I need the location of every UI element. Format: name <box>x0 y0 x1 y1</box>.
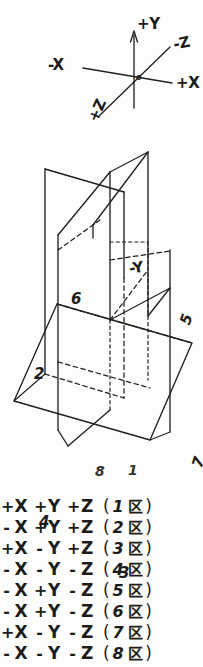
table-row: - X + Y - Z ( 6 区 ) <box>0 600 203 621</box>
y-sign: - <box>34 644 45 663</box>
axis-label-positive-x: +X <box>176 76 199 91</box>
z-sign: - <box>67 644 78 663</box>
y-axis-letter: Y <box>45 517 63 537</box>
y-sign: - <box>34 623 45 642</box>
x-sign: - <box>1 560 12 579</box>
octant-label-6: 6 <box>71 292 81 307</box>
table-row: - X + Y + Z ( 2 区 ) <box>0 516 203 537</box>
octant-number: 5 <box>109 581 126 600</box>
y-sign: + <box>34 497 45 516</box>
zone-character: 区 <box>126 495 145 516</box>
table-row: + X - Y + Z ( 3 区 ) <box>0 537 203 558</box>
x-axis-line <box>83 68 172 83</box>
z-sign: - <box>67 602 78 621</box>
zone-character: 区 <box>126 642 145 663</box>
y-axis-letter: Y <box>45 580 63 600</box>
octant-label-2: 2 <box>34 367 44 382</box>
y-sign: - <box>34 539 45 558</box>
x-sign: + <box>1 623 12 642</box>
y-sign: - <box>34 560 45 579</box>
z-sign: + <box>67 497 78 516</box>
octant-number: 1 <box>109 497 126 516</box>
axis-label-positive-y: +Y <box>137 17 160 32</box>
x-axis-letter: X <box>12 559 30 579</box>
x-sign: - <box>1 644 12 663</box>
table-row: - X - Y - Z ( 4 区 ) <box>0 558 203 579</box>
z-sign: - <box>67 560 78 579</box>
y-axis-letter: Y <box>45 622 63 642</box>
y-axis-letter: Y <box>45 538 63 558</box>
origin-label: o <box>136 74 142 82</box>
coordinate-axes-figure: +Y -Z -X +X +Z o <box>0 0 203 150</box>
z-sign: - <box>67 623 78 642</box>
axis-label-negative-z: -Z <box>172 35 191 53</box>
octant-number: 8 <box>109 644 126 663</box>
octant-number: 4 <box>109 560 126 579</box>
z-axis-letter: Z <box>78 580 96 600</box>
octant-number: 7 <box>109 623 126 642</box>
close-paren: ) <box>145 622 151 642</box>
table-row: - X + Y - Z ( 5 区 ) <box>0 579 203 600</box>
z-sign: + <box>67 518 78 537</box>
x-axis-letter: X <box>12 643 30 663</box>
z-sign: + <box>67 539 78 558</box>
x-axis-letter: X <box>12 517 30 537</box>
close-paren: ) <box>145 517 151 537</box>
x-axis-letter: X <box>12 496 30 516</box>
z-axis-letter: Z <box>78 538 96 558</box>
close-paren: ) <box>145 559 151 579</box>
plane-crossing-edges <box>14 152 170 440</box>
octant-number: 2 <box>109 518 126 537</box>
table-row: + X + Y + Z ( 1 区 ) <box>0 495 203 516</box>
z-axis-letter: Z <box>78 622 96 642</box>
y-axis-letter: Y <box>45 496 63 516</box>
y-axis-letter: Y <box>45 559 63 579</box>
zone-character: 区 <box>126 579 145 600</box>
octant-number: 6 <box>109 602 126 621</box>
x-sign: + <box>1 497 12 516</box>
x-sign: - <box>1 602 12 621</box>
zone-character: 区 <box>126 621 145 642</box>
z-axis-letter: Z <box>78 643 96 663</box>
octant-planes-figure: -Y 6 5 2 8 1 7 4 3 <box>0 130 203 480</box>
x-sign: - <box>1 581 12 600</box>
z-sign: - <box>67 581 78 600</box>
x-sign: + <box>1 539 12 558</box>
z-axis-letter: Z <box>78 601 96 621</box>
x-sign: - <box>1 518 12 537</box>
zone-character: 区 <box>126 600 145 621</box>
octant-sign-table: + X + Y + Z ( 1 区 ) - X + Y + Z ( 2 区 <box>0 495 203 663</box>
octant-label-8: 8 <box>95 464 105 478</box>
octant-number: 3 <box>109 539 126 558</box>
axis-label-negative-x: -X <box>48 58 64 73</box>
zone-character: 区 <box>126 537 145 558</box>
octant-label-1: 1 <box>128 463 138 477</box>
y-sign: + <box>34 518 45 537</box>
y-axis-letter: Y <box>45 643 63 663</box>
close-paren: ) <box>145 643 151 663</box>
zone-character: 区 <box>126 558 145 579</box>
z-axis-letter: Z <box>78 517 96 537</box>
table-row: - X - Y - Z ( 8 区 ) <box>0 642 203 663</box>
octant-figure-axis-label-negative-y: -Y <box>128 260 144 277</box>
close-paren: ) <box>145 538 151 558</box>
close-paren: ) <box>145 580 151 600</box>
close-paren: ) <box>145 601 151 621</box>
drawing-sheet: +Y -Z -X +X +Z o <box>0 0 203 667</box>
y-axis-letter: Y <box>45 601 63 621</box>
x-axis-letter: X <box>12 622 30 642</box>
x-axis-letter: X <box>12 538 30 558</box>
y-sign: + <box>34 602 45 621</box>
table-row: + X - Y - Z ( 7 区 ) <box>0 621 203 642</box>
x-axis-letter: X <box>12 580 30 600</box>
z-axis-letter: Z <box>78 496 96 516</box>
z-axis-letter: Z <box>78 559 96 579</box>
x-axis-letter: X <box>12 601 30 621</box>
zone-character: 区 <box>126 516 145 537</box>
y-sign: + <box>34 581 45 600</box>
close-paren: ) <box>145 496 151 516</box>
